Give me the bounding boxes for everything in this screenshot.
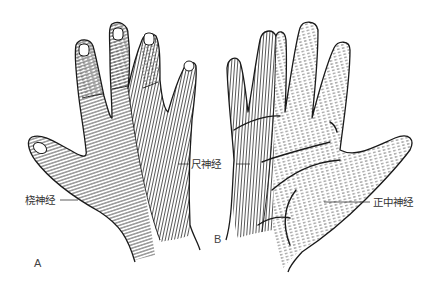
ulnar-nerve-region-palmar: [227, 31, 276, 238]
label-median-nerve: 正中神经: [373, 197, 413, 208]
hand-nerve-diagram: 桡神经 尺神经 正中神经 A B: [0, 0, 440, 285]
fingernail-index: [79, 44, 89, 56]
panel-letter-a: A: [34, 258, 41, 269]
fingernail-little: [184, 61, 194, 71]
fingernail-middle: [113, 28, 123, 40]
panel-letter-b: B: [214, 234, 221, 245]
fingernail-ring: [144, 33, 154, 45]
hand-palmar-view: [226, 22, 412, 272]
label-radial-nerve: 桡神经: [25, 195, 55, 206]
hand-dorsal-view: [28, 22, 200, 262]
label-ulnar-nerve: 尺神经: [191, 159, 221, 170]
